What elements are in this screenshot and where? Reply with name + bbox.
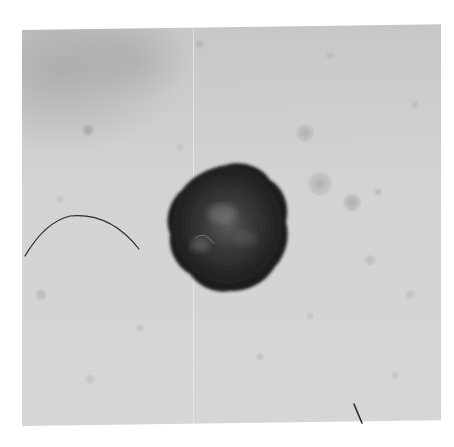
curved-hair <box>25 216 139 256</box>
pigmented-lesion <box>168 163 288 291</box>
short-hair <box>354 404 362 423</box>
lesion-overlay <box>0 0 454 447</box>
